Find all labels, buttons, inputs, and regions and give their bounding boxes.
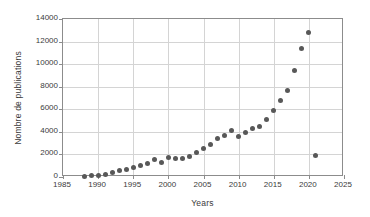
data-point: [96, 173, 101, 178]
gridline-vertical: [133, 19, 134, 175]
gridline-vertical: [239, 19, 240, 175]
gridline-vertical: [309, 19, 310, 175]
x-tick-label: 1995: [115, 181, 149, 189]
data-point: [117, 168, 122, 173]
y-tick-label: 10000: [28, 59, 58, 67]
y-axis-title: Nombre de publications: [10, 14, 26, 182]
publications-scatter-chart: Nombre de publications 14000120001000080…: [0, 0, 370, 217]
data-point: [187, 154, 192, 159]
data-point: [243, 130, 248, 135]
data-point: [159, 160, 164, 165]
gridline-horizontal: [63, 132, 342, 133]
data-point: [264, 117, 269, 122]
data-point: [173, 156, 178, 161]
gridline-horizontal: [63, 64, 342, 65]
x-tick-mark: [63, 175, 64, 179]
data-point: [145, 161, 150, 166]
y-tick-label: 14000: [28, 14, 58, 22]
y-tick-label: 12000: [28, 37, 58, 45]
gridline-horizontal: [63, 87, 342, 88]
data-point: [166, 155, 171, 160]
gridline-horizontal: [63, 154, 342, 155]
data-point: [299, 46, 304, 51]
y-tick-mark: [59, 109, 63, 110]
gridline-horizontal: [63, 42, 342, 43]
gridline-vertical: [274, 19, 275, 175]
data-point: [124, 167, 129, 172]
data-point: [89, 173, 94, 178]
data-point: [222, 133, 227, 138]
x-tick-label: 2010: [221, 181, 255, 189]
x-tick-mark: [274, 175, 275, 179]
x-tick-mark: [239, 175, 240, 179]
data-point: [152, 157, 157, 162]
x-tick-label: 2025: [326, 181, 360, 189]
data-point: [110, 170, 115, 175]
y-tick-label: 8000: [28, 82, 58, 90]
data-point: [131, 165, 136, 170]
x-tick-mark: [344, 175, 345, 179]
data-point: [82, 174, 87, 179]
y-tick-label: 2000: [28, 149, 58, 157]
data-point: [250, 126, 255, 131]
x-tick-label: 2015: [256, 181, 290, 189]
y-tick-mark: [59, 64, 63, 65]
x-tick-label: 2005: [186, 181, 220, 189]
y-tick-label: 4000: [28, 127, 58, 135]
x-tick-label: 1990: [80, 181, 114, 189]
x-tick-label: 2000: [150, 181, 184, 189]
gridline-vertical: [168, 19, 169, 175]
y-tick-mark: [59, 42, 63, 43]
data-point: [292, 68, 297, 73]
x-tick-mark: [168, 175, 169, 179]
data-point: [313, 153, 318, 158]
x-axis-tick-labels: 198519901995200020052010201520202025: [62, 181, 343, 193]
data-point: [285, 88, 290, 93]
x-axis-title: Years: [62, 198, 343, 208]
y-axis-tick-labels: 14000120001000080006000400020000: [26, 18, 58, 176]
data-point: [194, 150, 199, 155]
data-point: [201, 146, 206, 151]
data-point: [215, 136, 220, 141]
data-point: [236, 134, 241, 139]
x-tick-mark: [204, 175, 205, 179]
data-point: [257, 124, 262, 129]
data-point: [208, 142, 213, 147]
y-tick-mark: [59, 132, 63, 133]
plot-area: [62, 18, 343, 176]
data-point: [180, 156, 185, 161]
gridline-vertical: [98, 19, 99, 175]
x-tick-mark: [133, 175, 134, 179]
data-point: [271, 108, 276, 113]
gridline-horizontal: [63, 109, 342, 110]
x-tick-label: 2020: [291, 181, 325, 189]
x-tick-mark: [309, 175, 310, 179]
data-point: [103, 172, 108, 177]
y-tick-mark: [59, 19, 63, 20]
gridline-vertical: [204, 19, 205, 175]
y-tick-label: 6000: [28, 104, 58, 112]
y-tick-mark: [59, 87, 63, 88]
y-tick-mark: [59, 154, 63, 155]
data-point: [278, 98, 283, 103]
y-tick-label: 0: [28, 172, 58, 180]
data-point: [138, 163, 143, 168]
x-tick-label: 1985: [45, 181, 79, 189]
data-point: [306, 30, 311, 35]
